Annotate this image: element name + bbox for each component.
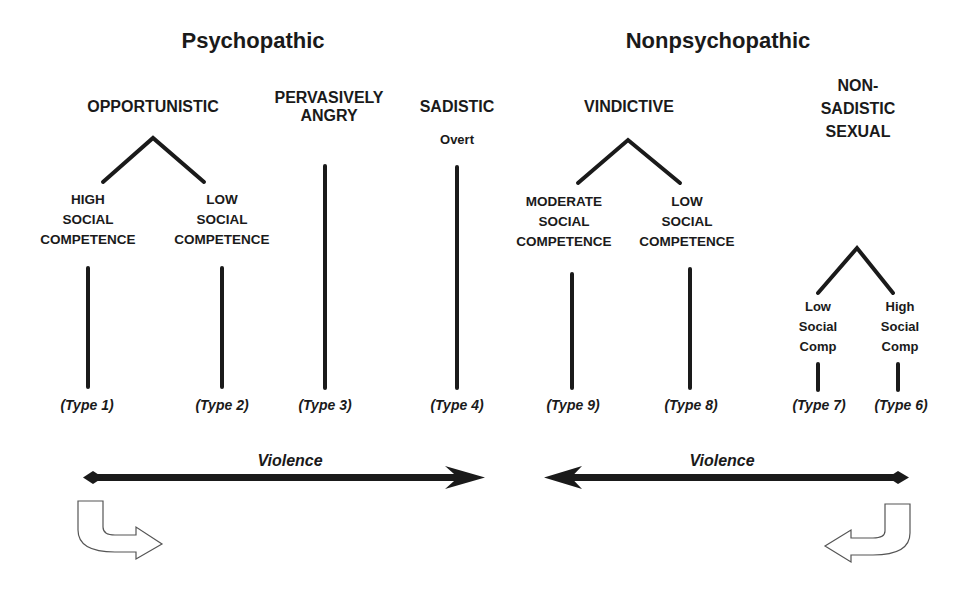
branch-high-social-competence: HIGH SOCIAL COMPETENCE [40,190,135,250]
category-nonsadistic-sexual: NON- SADISTIC SEXUAL [821,74,896,143]
nonsadistic-sexual-branch-caret [818,248,893,293]
branch-label-line: Low [799,297,837,317]
branch-label-line: COMPETENCE [639,232,734,252]
branch-high-social-comp: High Social Comp [881,297,919,357]
diamond-endpoint-icon [83,471,103,484]
branch-label-line: SOCIAL [40,210,135,230]
branch-low-social-competence-vindictive: LOW SOCIAL COMPETENCE [639,192,734,252]
type-1-label: (Type 1) [60,397,113,413]
branch-low-social-comp: Low Social Comp [799,297,837,357]
type-2-label: (Type 2) [195,397,248,413]
category-sadistic: SADISTIC [420,98,495,116]
branch-label-line: LOW [174,190,269,210]
branch-label-line: COMPETENCE [40,230,135,250]
type-3-label: (Type 3) [298,397,351,413]
type-7-label: (Type 7) [792,397,845,413]
violence-label-left: Violence [257,452,322,470]
category-label-line: PERVASIVELY [274,89,383,107]
type-8-label: (Type 8) [664,397,717,413]
violence-label-right: Violence [689,452,754,470]
branch-label-line: HIGH [40,190,135,210]
category-pervasively-angry: PERVASIVELY ANGRY [274,89,383,125]
branch-label-line: Social [799,317,837,337]
branch-label-line: Comp [881,337,919,357]
opportunistic-branch-caret [103,138,204,182]
branch-label-line: MODERATE [516,192,611,212]
category-vindictive: VINDICTIVE [584,98,674,116]
branch-label-line: Social [881,317,919,337]
branch-label-line: SOCIAL [174,210,269,230]
type-9-label: (Type 9) [546,397,599,413]
category-label-line: SADISTIC [821,97,896,120]
diamond-endpoint-icon [888,471,909,484]
type-6-label: (Type 6) [874,397,927,413]
offender-typology-diagram: Psychopathic Nonpsychopathic OPPORTUNIST… [0,0,965,591]
branch-low-social-competence: LOW SOCIAL COMPETENCE [174,190,269,250]
branch-label-line: Comp [799,337,837,357]
type-4-label: (Type 4) [430,397,483,413]
sadistic-sublabel-overt: Overt [440,132,474,147]
vindictive-branch-caret [578,140,680,183]
branch-label-line: COMPETENCE [516,232,611,252]
heading-psychopathic: Psychopathic [181,28,324,54]
branch-label-line: LOW [639,192,734,212]
category-label-line: ANGRY [274,107,383,125]
category-label-line: SEXUAL [821,120,896,143]
branch-label-line: SOCIAL [639,212,734,232]
branch-moderate-social-competence: MODERATE SOCIAL COMPETENCE [516,192,611,252]
branch-label-line: COMPETENCE [174,230,269,250]
curved-arrow-right-icon [78,501,162,559]
category-opportunistic: OPPORTUNISTIC [87,98,219,116]
branch-label-line: High [881,297,919,317]
branch-label-line: SOCIAL [516,212,611,232]
curved-arrow-left-icon [825,504,910,562]
heading-nonpsychopathic: Nonpsychopathic [626,28,811,54]
category-label-line: NON- [821,74,896,97]
